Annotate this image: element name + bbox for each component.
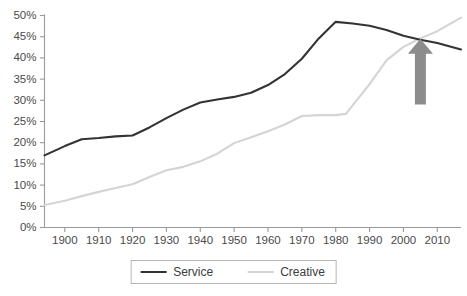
legend-entry-service[interactable]: Service <box>140 265 213 279</box>
y-tick-label: 15% <box>13 157 36 169</box>
legend-swatch-creative <box>247 271 273 273</box>
crossover-arrow-icon <box>408 39 433 105</box>
legend-swatch-service <box>140 271 166 273</box>
chart-legend: Service Creative <box>130 260 337 284</box>
y-tick-label: 10% <box>13 179 36 191</box>
y-tick-label: 40% <box>13 51 36 63</box>
y-tick-label: 0% <box>20 221 37 233</box>
x-tick-label: 1990 <box>357 234 383 246</box>
x-tick-label: 1910 <box>86 234 112 246</box>
legend-label-service: Service <box>173 265 213 279</box>
y-tick-label: 35% <box>13 73 36 85</box>
x-tick-label: 1920 <box>120 234 146 246</box>
y-tick-label: 50% <box>13 9 36 21</box>
y-tick-label: 30% <box>13 94 36 106</box>
legend-label-creative: Creative <box>280 265 325 279</box>
x-tick-label: 1940 <box>187 234 213 246</box>
x-tick-label: 2000 <box>391 234 417 246</box>
x-tick-label: 1980 <box>323 234 349 246</box>
x-tick-label: 1970 <box>289 234 315 246</box>
series-line-service <box>45 22 462 156</box>
y-tick-label: 25% <box>13 115 36 127</box>
x-tick-label: 1900 <box>52 234 78 246</box>
x-tick-label: 2010 <box>424 234 450 246</box>
x-tick-label: 1930 <box>154 234 180 246</box>
x-tick-label: 1960 <box>255 234 281 246</box>
x-tick-label: 1950 <box>221 234 247 246</box>
y-tick-label: 20% <box>13 136 36 148</box>
series-line-creative <box>45 18 462 205</box>
legend-entry-creative[interactable]: Creative <box>247 265 325 279</box>
y-tick-label: 45% <box>13 30 36 42</box>
y-tick-label: 5% <box>20 200 37 212</box>
line-chart: 0%5%10%15%20%25%30%35%40%45%50%190019101… <box>0 0 467 296</box>
chart-plot-area: 0%5%10%15%20%25%30%35%40%45%50%190019101… <box>0 0 467 296</box>
